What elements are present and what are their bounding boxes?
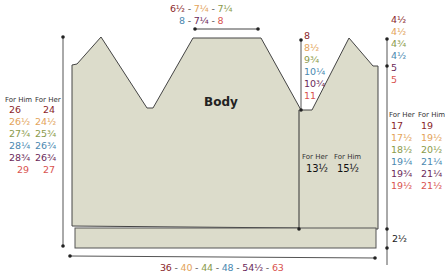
bottom-width-row: 36 - 40 - 44 - 48 - 54½ - 63 [160,262,284,274]
left-him-column: 26 26½ 27¾ 28¼ 28¾ 29 [9,104,30,176]
shoulder-drop-column: 4½ 4½ 4¾ 4½ 5 5 [391,14,406,86]
ribbing-value: 2½ [392,233,407,245]
bottom-width-dim-line [70,256,375,258]
armhole-her-value: 13½ [306,163,328,175]
left-header-him: For Him [5,96,32,104]
right-him-column: 19 19½ 20½ 21¼ 21¼ 21½ [421,120,442,192]
armhole-him-value: 15½ [337,163,359,175]
right-header-him: For Him [418,111,445,119]
right-header-her: For Her [389,111,415,119]
armhole-header-him: For Him [334,153,361,161]
top-width-row2: 8 - 7¼ - 8 [179,15,223,27]
body-panel [72,37,378,229]
left-her-column: 24 24½ 25¾ 26¾ 26¾ 27 [35,104,56,176]
top-width-row1: 6½ - 7¼ - 7¼ [170,3,232,15]
ribbing-band [75,228,376,248]
left-header-her: For Her [35,96,61,104]
body-schematic [0,0,445,275]
right-her-column: 17 17½ 18½ 19¼ 19¾ 19½ [391,120,412,192]
piece-title: Body [204,95,238,109]
armhole-header-her: For Her [302,153,328,161]
neck-depth-column: 8 8½ 9¾ 10¼ 10¾ 11 [304,30,325,102]
